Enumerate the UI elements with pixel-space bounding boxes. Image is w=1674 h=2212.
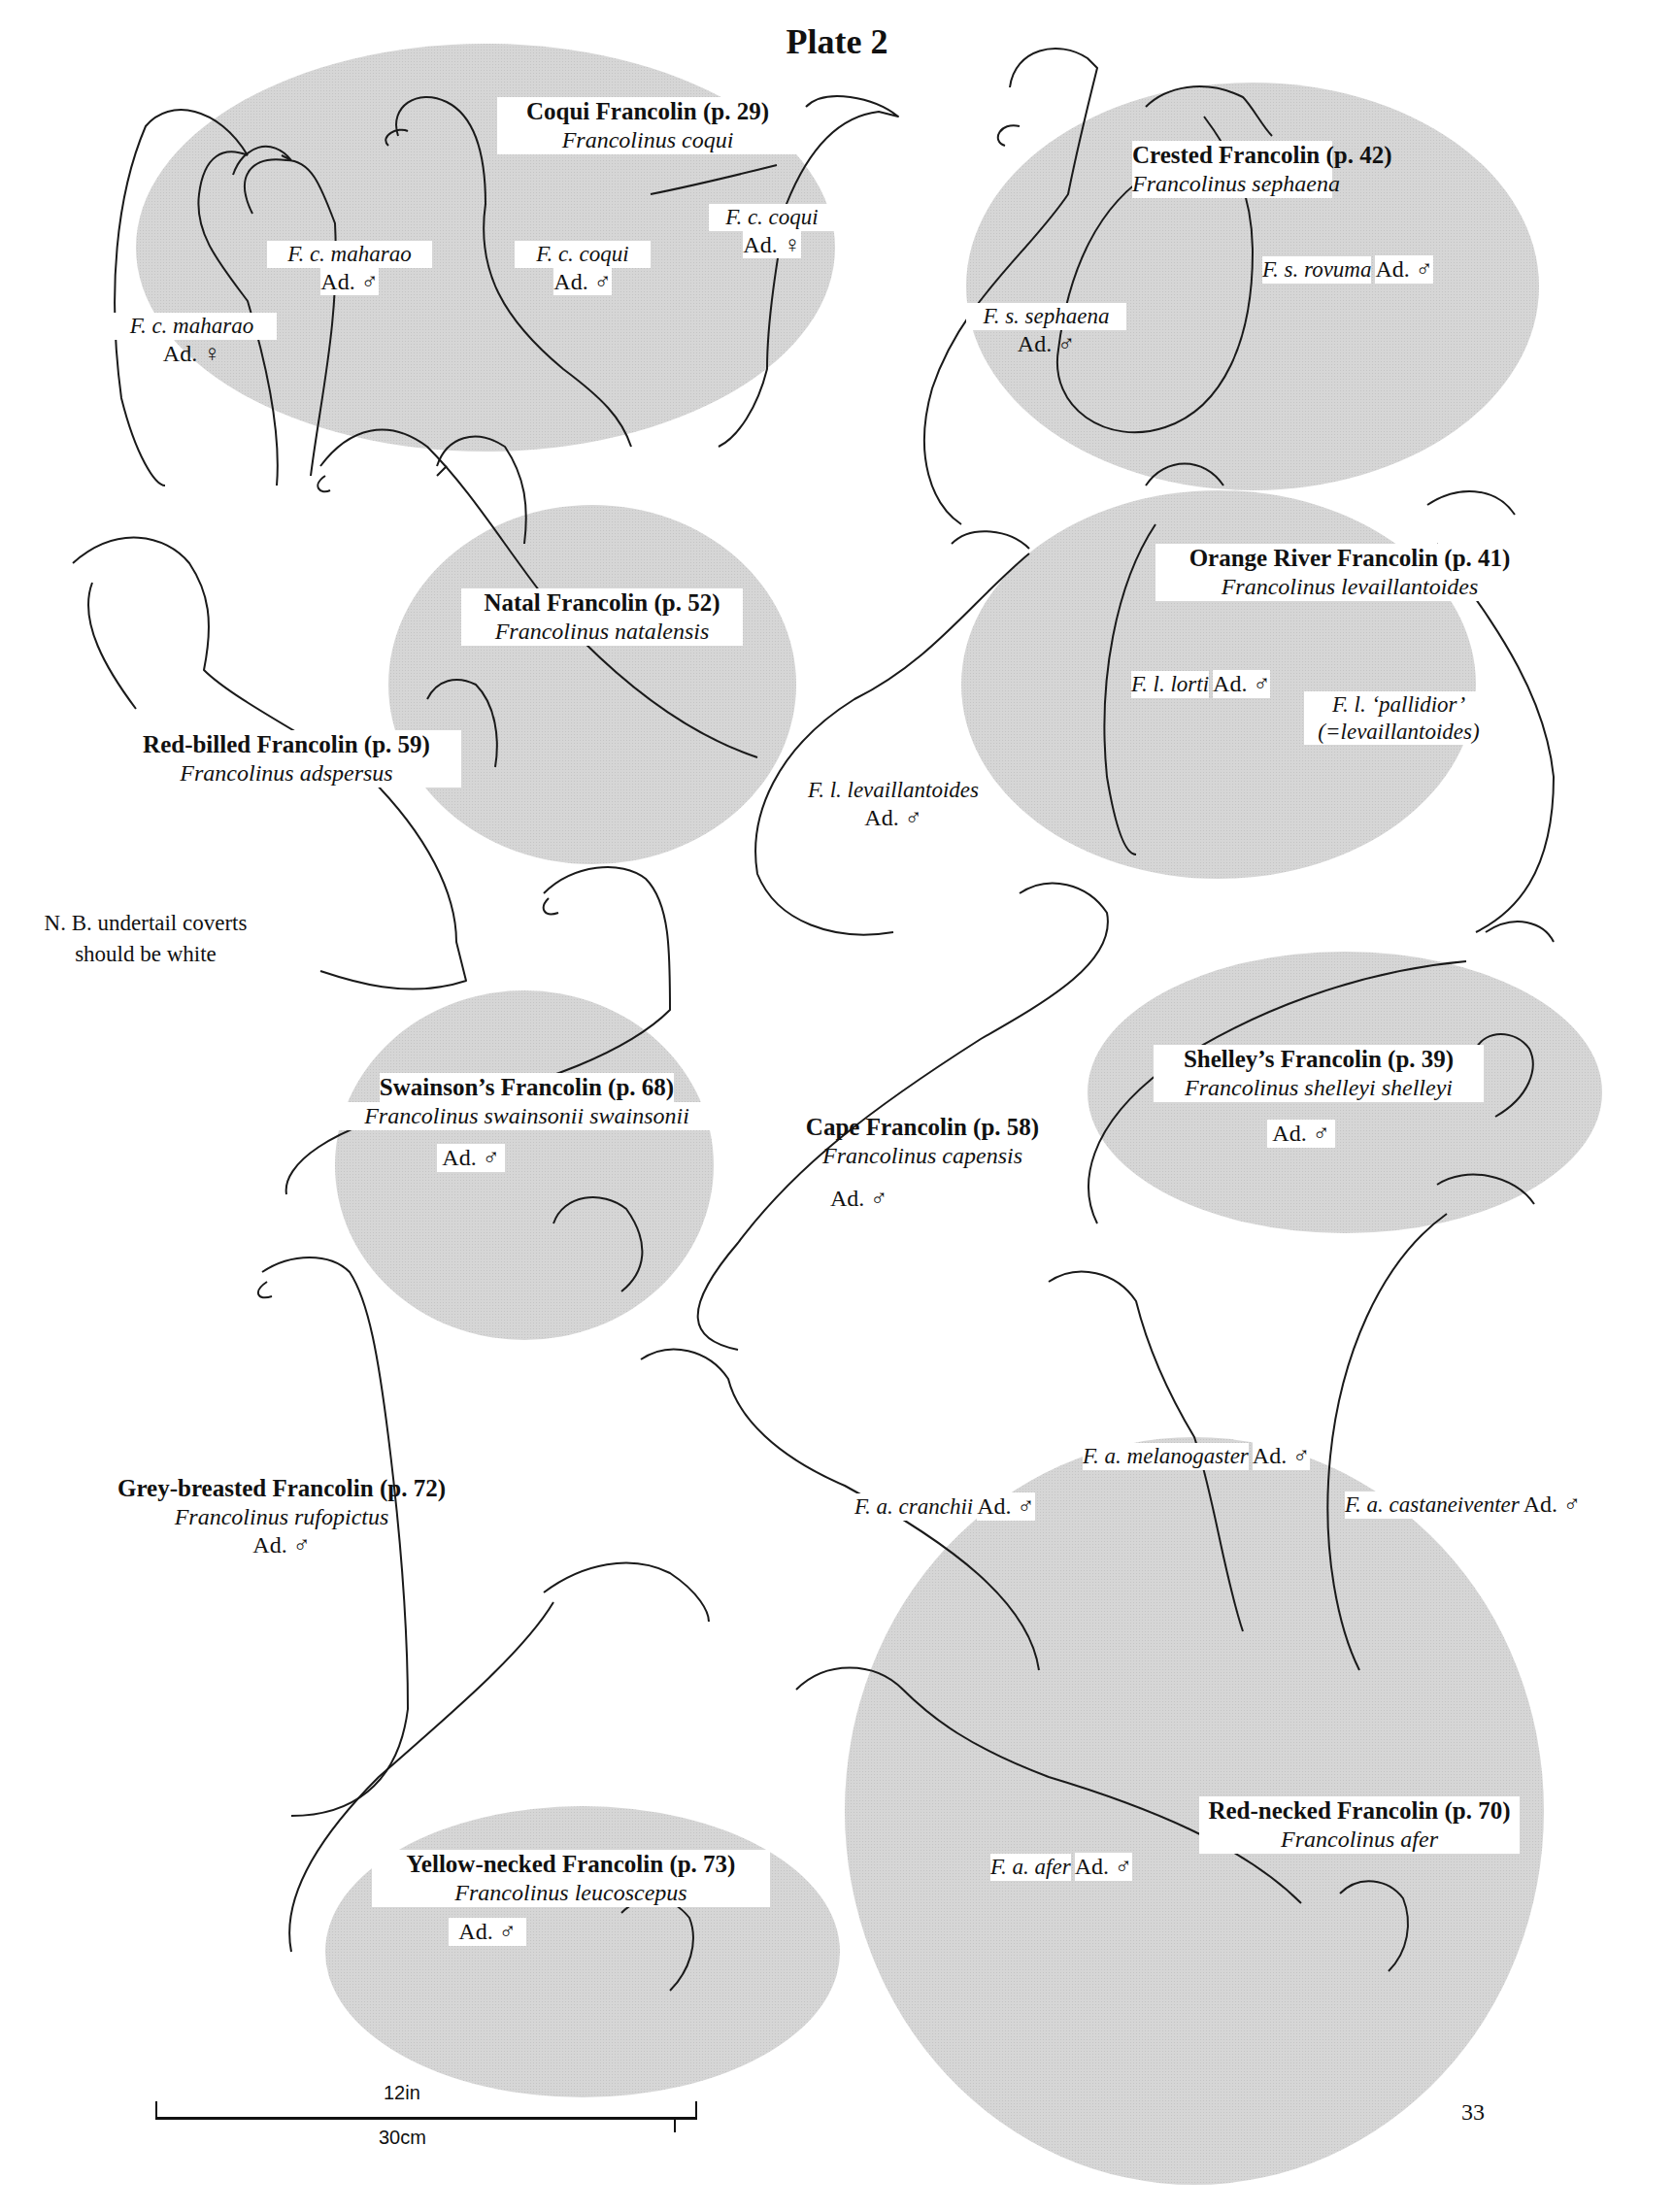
common-name: Cape Francolin (p. 58) [777, 1113, 1068, 1142]
subspecies-name: F. l. levaillantoides [796, 777, 990, 804]
form-label: F. a. melanogaster Ad. ♂ [1083, 1442, 1257, 1470]
scientific-name: Francolinus afer [1199, 1826, 1520, 1854]
form-label: F. l. ‘pallidior’ (=levaillantoides) [1304, 691, 1493, 745]
scientific-name: Francolinus natalensis [461, 618, 743, 646]
label-cape: Cape Francolin (p. 58) Francolinus capen… [777, 1113, 1068, 1170]
common-name: Yellow-necked Francolin (p. 73) [372, 1850, 770, 1879]
subspecies-name: F. c. coqui [515, 241, 651, 268]
form-label: F. s. rovuma Ad. ♂ [1262, 255, 1408, 284]
subspecies-name: F. s. sephaena [966, 303, 1126, 330]
subspecies-name: F. a. melanogaster [1083, 1443, 1249, 1470]
age-sex: Ad. ♂ [449, 1918, 526, 1946]
common-name: Orange River Francolin (p. 41) [1155, 544, 1544, 573]
age-sex: Ad. ♂ [437, 1144, 505, 1172]
scale-tick [674, 2119, 676, 2132]
form-label: F. a. cranchii Ad. ♂ [854, 1492, 981, 1521]
age-sex: Ad. ♂ [1375, 255, 1432, 284]
scientific-name: Francolinus rufopictus [107, 1503, 456, 1531]
oval-natal [388, 505, 796, 864]
age-sex: Ad. ♂ [320, 268, 378, 296]
age-sex: Ad. ♂ [1213, 670, 1270, 698]
label-swainson: Swainson’s Francolin (p. 68) Francolinus… [335, 1073, 719, 1130]
age-label: Ad. ♂ [449, 1918, 526, 1946]
age-sex: Ad. ♀ [743, 231, 800, 259]
form-label: F. c. maharao Ad. ♀ [107, 313, 277, 367]
age-label: Ad. ♂ [830, 1185, 887, 1213]
form-label: F. l. levaillantoides Ad. ♂ [796, 777, 990, 831]
subspecies-name: F. s. rovuma [1262, 256, 1371, 284]
subspecies-name: F. c. maharao [267, 241, 432, 268]
age-sex: Ad. ♂ [1253, 1442, 1310, 1470]
age-sex: Ad. ♂ [796, 804, 990, 832]
scientific-name: Francolinus levaillantoides [1155, 573, 1544, 601]
age-sex: Ad. ♂ [107, 1531, 456, 1559]
note-line-1: N. B. undertail coverts [19, 908, 272, 939]
label-orange-river: Orange River Francolin (p. 41) Francolin… [1155, 544, 1544, 601]
common-name: Natal Francolin (p. 52) [461, 588, 743, 618]
form-label: F. a. afer Ad. ♂ [990, 1853, 1083, 1881]
age-label: Ad. ♂ [1267, 1120, 1335, 1148]
age-sex: Ad. ♂ [1075, 1853, 1132, 1881]
scale-imperial: 12in [384, 2082, 420, 2104]
scientific-name: Francolinus coqui [497, 126, 798, 154]
common-name: Coqui Francolin (p. 29) [497, 97, 798, 126]
label-crested: Crested Francolin (p. 42) Francolinus se… [1132, 141, 1332, 198]
label-coqui: Coqui Francolin (p. 29) Francolinus coqu… [497, 97, 798, 154]
scale-line [155, 2117, 697, 2120]
age-sex: Ad. ♀ [107, 340, 277, 368]
form-label: F. c. maharao Ad. ♂ [267, 241, 432, 295]
subspecies-name: F. a. cranchii [854, 1493, 973, 1521]
scientific-name: Francolinus sephaena [1132, 170, 1332, 198]
age-sex: Ad. ♂ [977, 1492, 1034, 1521]
subspecies-name: F. a. castaneiventer [1345, 1491, 1520, 1519]
subspecies-name: F. a. afer [990, 1854, 1071, 1881]
subspecies-name: F. c. maharao [107, 313, 277, 340]
form-label: F. s. sephaena Ad. ♂ [966, 303, 1126, 357]
scientific-name: Francolinus shelleyi shelleyi [1154, 1074, 1484, 1102]
label-red-billed: Red-billed Francolin (p. 59) Francolinus… [112, 730, 461, 788]
common-name: Swainson’s Francolin (p. 68) [380, 1073, 674, 1102]
age-sex: Ad. ♂ [966, 330, 1126, 358]
age-sex: Ad. ♂ [830, 1185, 887, 1213]
subspecies-name: F. l. ‘pallidior’ [1304, 691, 1493, 719]
scientific-name: Francolinus leucoscepus [372, 1879, 770, 1907]
note-line-2: should be white [19, 939, 272, 970]
common-name: Grey-breasted Francolin (p. 72) [107, 1474, 456, 1503]
synonym: (=levaillantoides) [1304, 719, 1493, 746]
undertail-note: N. B. undertail coverts should be white [19, 908, 272, 970]
common-name: Red-billed Francolin (p. 59) [112, 730, 461, 759]
label-grey-breasted: Grey-breasted Francolin (p. 72) Francoli… [107, 1474, 456, 1559]
form-label: F. c. coqui Ad. ♀ [709, 204, 835, 258]
label-natal: Natal Francolin (p. 52) Francolinus nata… [461, 588, 743, 646]
age-sex: Ad. ♂ [553, 268, 611, 296]
oval-swainson [335, 990, 714, 1340]
label-shelley: Shelley’s Francolin (p. 39) Francolinus … [1154, 1045, 1484, 1102]
common-name: Shelley’s Francolin (p. 39) [1154, 1045, 1484, 1074]
age-label: Ad. ♂ [437, 1144, 505, 1172]
label-red-necked: Red-necked Francolin (p. 70) Francolinus… [1199, 1796, 1520, 1854]
label-yellow-necked: Yellow-necked Francolin (p. 73) Francoli… [372, 1850, 770, 1907]
common-name: Crested Francolin (p. 42) [1132, 141, 1332, 170]
age-sex: Ad. ♂ [1523, 1491, 1581, 1519]
scientific-name: Francolinus swainsonii swainsonii [335, 1102, 719, 1130]
form-label: F. a. castaneiventer Ad. ♂ [1345, 1491, 1563, 1519]
scientific-name: Francolinus adspersus [112, 759, 461, 788]
scale-metric: 30cm [379, 2127, 426, 2149]
subspecies-name: F. c. coqui [709, 204, 835, 231]
scientific-name: Francolinus capensis [777, 1142, 1068, 1170]
age-sex: Ad. ♂ [1267, 1120, 1335, 1148]
page-number: 33 [1461, 2099, 1485, 2126]
form-label: F. l. lorti Ad. ♂ [1131, 670, 1238, 698]
subspecies-name: F. l. lorti [1131, 671, 1209, 698]
form-label: F. c. coqui Ad. ♂ [515, 241, 651, 295]
common-name: Red-necked Francolin (p. 70) [1199, 1796, 1520, 1826]
